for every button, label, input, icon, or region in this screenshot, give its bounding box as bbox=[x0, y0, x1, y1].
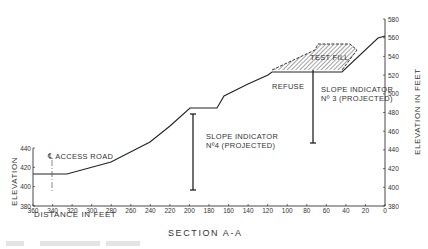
right-y-tick-label: 460 bbox=[388, 128, 399, 135]
x-tick-label: 40 bbox=[342, 207, 350, 214]
slope-indicator-3-label-line1: SLOPE INDICATOR bbox=[321, 85, 393, 94]
slope-indicator-3-label-line2: Nº 3 (PROJECTED) bbox=[321, 94, 393, 103]
right-y-tick-label: 580 bbox=[388, 16, 399, 23]
left-y-axis-title: ELEVATION bbox=[10, 157, 19, 206]
x-tick-label: 160 bbox=[223, 207, 234, 214]
x-tick-label: 100 bbox=[282, 207, 293, 214]
x-tick-label: 0 bbox=[383, 207, 387, 214]
section-caption: SECTION A-A bbox=[168, 228, 243, 238]
right-y-tick-label: 400 bbox=[388, 184, 399, 191]
right-y-tick-label: 520 bbox=[388, 72, 399, 79]
right-y-tick-label: 420 bbox=[388, 165, 399, 172]
slope-indicator-4-label-line2: Nº4 (PROJECTED) bbox=[206, 141, 276, 150]
right-y-tick-label: 440 bbox=[388, 146, 399, 153]
right-y-tick-label: 540 bbox=[388, 53, 399, 60]
right-y-axis-title: ELEVATION IN FEET bbox=[413, 68, 422, 155]
x-tick-label: 120 bbox=[262, 207, 273, 214]
test-fill-label: TEST FILL bbox=[310, 53, 349, 62]
refuse-label: REFUSE bbox=[272, 82, 304, 91]
x-tick-label: 220 bbox=[164, 207, 175, 214]
x-tick-label: 140 bbox=[243, 207, 254, 214]
left-y-tick-label: 420 bbox=[20, 164, 31, 171]
left-y-tick-label: 440 bbox=[20, 145, 31, 152]
right-y-tick-label: 560 bbox=[388, 34, 399, 41]
x-tick-label: 200 bbox=[184, 207, 195, 214]
x-tick-label: 20 bbox=[362, 207, 370, 214]
slope-indicator-4-label-line1: SLOPE INDICATOR bbox=[206, 132, 278, 141]
x-tick-label: 180 bbox=[204, 207, 215, 214]
faint-figure-caption bbox=[6, 241, 140, 246]
slope-indicator-4 bbox=[190, 114, 196, 190]
x-tick-label: 80 bbox=[303, 207, 311, 214]
access-road-label: ℄ ACCESS ROAD bbox=[47, 152, 113, 161]
right-y-tick-label: 380 bbox=[388, 203, 399, 210]
x-axis-title: DISTANCE IN FEET bbox=[34, 210, 116, 219]
right-y-tick-label: 480 bbox=[388, 109, 399, 116]
left-y-tick-label: 380 bbox=[20, 203, 31, 210]
slope-indicator-3 bbox=[310, 70, 316, 143]
x-tick-label: 240 bbox=[145, 207, 156, 214]
x-tick-label: 260 bbox=[125, 207, 136, 214]
x-tick-label: 60 bbox=[323, 207, 331, 214]
section-diagram: 3603403203002802602402202001801601401201… bbox=[0, 0, 428, 249]
left-y-tick-label: 400 bbox=[20, 183, 31, 190]
